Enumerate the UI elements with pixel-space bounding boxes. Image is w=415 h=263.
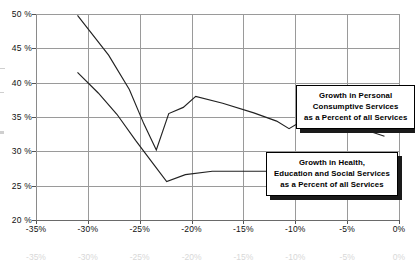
callout-line: Consumptive Services (304, 101, 407, 112)
callout-line: as a Percent of all Services (274, 179, 390, 190)
x-axis-tick-label-ghost: -20% (182, 252, 202, 262)
x-axis-tick-label-ghost: -10% (285, 252, 305, 262)
x-axis-tick-label: -10% (285, 224, 306, 234)
x-axis-tick-label: -5% (339, 224, 355, 234)
callout-health-education-social: Growth in Health,Education and Social Se… (266, 152, 398, 196)
x-axis-tick-label-ghost: 0% (393, 252, 405, 262)
x-axis-tick-label-ghost: -35% (26, 252, 46, 262)
x-axis-tick-label-ghost: -30% (78, 252, 98, 262)
series-line-personal-consumptive (77, 15, 384, 150)
x-axis-tick-label: -25% (129, 224, 150, 234)
x-axis-tick-label: 0% (393, 224, 406, 234)
callout-line: as a Percent of all Services (304, 112, 407, 123)
callout-line: Growth in Health, (274, 157, 390, 168)
x-axis-tick-label-ghost: -5% (340, 252, 355, 262)
callout-personal-consumptive: Growth in PersonalConsumptive Servicesas… (296, 85, 415, 129)
x-axis-tick-label: -20% (181, 224, 202, 234)
x-axis-tick-label: -35% (26, 224, 47, 234)
callout-line: Education and Social Services (274, 168, 390, 179)
x-axis-tick-label: -30% (78, 224, 99, 234)
x-axis-tick-label-ghost: -15% (234, 252, 254, 262)
x-axis-tick-label: -15% (233, 224, 254, 234)
callout-line: Growth in Personal (304, 90, 407, 101)
x-axis-tick-label-ghost: -25% (130, 252, 150, 262)
